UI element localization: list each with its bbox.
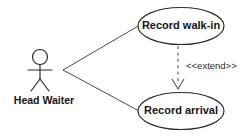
actor-right-leg-line: [40, 79, 49, 91]
use-case-label-record-arrival: Record arrival: [144, 104, 218, 116]
use-case-diagram: Record walk-in Record arrival Head Waite…: [0, 0, 246, 136]
actor-left-leg-line: [31, 79, 40, 91]
stereotype-label-extend: <<extend>>: [186, 60, 237, 71]
actor-head-icon: [33, 50, 48, 65]
use-case-label-record-walk-in: Record walk-in: [142, 19, 221, 31]
diagram-canvas: Record walk-in Record arrival Head Waite…: [0, 0, 246, 136]
association-line-head-waiter-record-arrival[interactable]: [63, 70, 141, 112]
association-line-head-waiter-record-walk-in[interactable]: [63, 25, 140, 70]
stick-figure-actor-icon[interactable]: [28, 50, 52, 92]
actor-label-head-waiter: Head Waiter: [14, 94, 74, 106]
